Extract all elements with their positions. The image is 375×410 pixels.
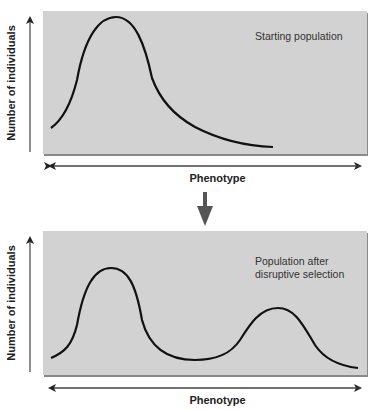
top-y-axis-label: Number of individuals bbox=[5, 13, 17, 153]
down-arrow-icon bbox=[197, 192, 213, 226]
top-distribution-curve bbox=[51, 17, 273, 147]
top-x-axis-label: Phenotype bbox=[0, 172, 375, 184]
bottom-x-axis-label: Phenotype bbox=[0, 394, 375, 406]
bottom-distribution-curve bbox=[51, 268, 358, 368]
bottom-y-axis-label: Number of individuals bbox=[5, 233, 17, 373]
diagram-graphics bbox=[0, 0, 375, 410]
